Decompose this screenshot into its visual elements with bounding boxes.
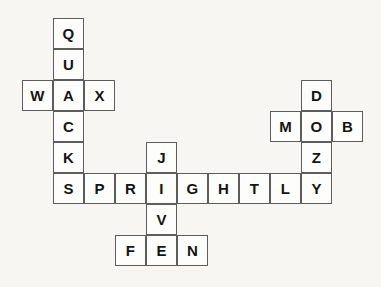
grid-cell-g-r5c5[interactable]: G: [177, 173, 208, 204]
grid-cell-m-r3c8[interactable]: M: [270, 111, 301, 142]
grid-cell-d-r2c9[interactable]: D: [301, 80, 332, 111]
grid-cell-f-r7c3[interactable]: F: [115, 235, 146, 266]
grid-cell-a-r2c1[interactable]: A: [53, 80, 84, 111]
grid-cell-e-r7c4[interactable]: E: [146, 235, 177, 266]
grid-cell-k-r4c1[interactable]: K: [53, 142, 84, 173]
grid-cell-w-r2c0[interactable]: W: [22, 80, 53, 111]
grid-cell-n-r7c5[interactable]: N: [177, 235, 208, 266]
grid-cell-s-r5c1[interactable]: S: [53, 173, 84, 204]
grid-cell-j-r4c4[interactable]: J: [146, 142, 177, 173]
grid-cell-r-r5c3[interactable]: R: [115, 173, 146, 204]
grid-cell-u-r1c1[interactable]: U: [53, 49, 84, 80]
grid-cell-i-r5c4[interactable]: I: [146, 173, 177, 204]
grid-cell-o-r3c9[interactable]: O: [301, 111, 332, 142]
grid-cell-h-r5c6[interactable]: H: [208, 173, 239, 204]
grid-cell-y-r5c9[interactable]: Y: [301, 173, 332, 204]
grid-cell-v-r6c4[interactable]: V: [146, 204, 177, 235]
grid-cell-z-r4c9[interactable]: Z: [301, 142, 332, 173]
grid-cell-c-r3c1[interactable]: C: [53, 111, 84, 142]
grid-cell-p-r5c2[interactable]: P: [84, 173, 115, 204]
grid-cell-q-r0c1[interactable]: Q: [53, 18, 84, 49]
grid-cell-b-r3c10[interactable]: B: [332, 111, 363, 142]
grid-cell-t-r5c7[interactable]: T: [239, 173, 270, 204]
crossword-grid: QUWAXCKJSPRIGHTLYVFENDMOBZ: [0, 0, 381, 287]
grid-cell-x-r2c2[interactable]: X: [84, 80, 115, 111]
grid-cell-l-r5c8[interactable]: L: [270, 173, 301, 204]
